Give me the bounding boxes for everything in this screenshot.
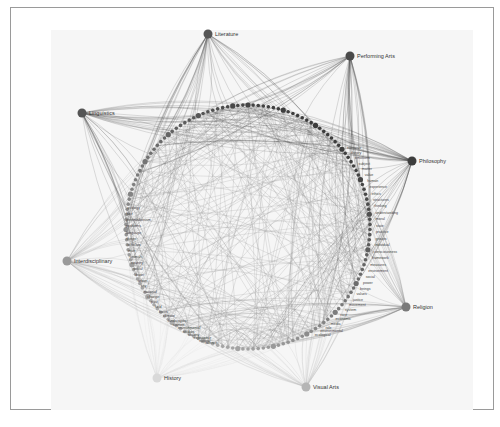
term-label: emotions	[355, 156, 370, 160]
term-label: postmodernism	[126, 218, 151, 222]
term-label: ecology	[128, 206, 141, 210]
hub-label: Visual Arts	[313, 384, 339, 390]
term-label: focus	[159, 310, 168, 314]
term-label: man	[128, 249, 135, 253]
term-label: city	[141, 284, 147, 288]
term-label: scholars	[127, 243, 141, 247]
term-label: system	[345, 308, 356, 312]
term-label: water	[136, 273, 146, 277]
term-label: movement	[349, 303, 366, 307]
term-label: problems	[126, 224, 141, 228]
term-label: urban	[138, 279, 147, 283]
hub-label: Literature	[215, 31, 238, 37]
hub-religion: Religion	[402, 303, 433, 312]
term-label: values	[357, 292, 368, 296]
hub-philosophy: Philosophy	[408, 157, 447, 166]
term-label: language	[126, 231, 141, 235]
hub-label: Linguistics	[89, 110, 115, 116]
term-label: structures	[373, 198, 389, 202]
term-label: past	[151, 300, 158, 304]
network-diagram: ecologyfactpostmodernismproblemslanguage…	[0, 0, 500, 427]
term-label: fact	[127, 212, 133, 216]
term-label: value	[365, 173, 374, 177]
term-label: country	[131, 261, 143, 265]
term-label: individual	[375, 243, 390, 247]
term-label: moral	[376, 217, 385, 221]
term-label: power	[363, 281, 374, 285]
term-label: ethics	[371, 192, 381, 196]
term-label: state	[376, 224, 384, 228]
hub-literature: Literature	[204, 30, 239, 39]
term-label: framework	[372, 256, 389, 260]
term-label: understanding	[375, 211, 398, 215]
hub-performing-arts: Performing Arts	[346, 52, 396, 61]
term-label: social	[133, 267, 142, 271]
term-label: ecological	[315, 333, 331, 337]
term-label: consciousness	[374, 250, 398, 254]
term-label: subject	[359, 162, 370, 166]
term-label: human	[367, 179, 378, 183]
term-label: national	[144, 290, 157, 294]
hub-history: History	[153, 374, 182, 383]
hub-label: Philosophy	[419, 158, 446, 164]
hub-label: History	[164, 375, 181, 381]
term-label: experience	[369, 185, 387, 189]
term-label: practice	[376, 230, 389, 234]
term-label: beings	[360, 287, 371, 291]
term-label: things	[127, 237, 137, 241]
hub-label: Performing Arts	[357, 53, 395, 59]
term-label: thinking	[374, 204, 386, 208]
term-label: theory	[351, 151, 361, 155]
term-label: narrative	[347, 146, 361, 150]
term-label: race	[340, 313, 347, 317]
term-label: social	[366, 275, 375, 279]
term-label: measures	[370, 263, 386, 267]
term-label: change	[147, 295, 159, 299]
term-label: science	[205, 341, 217, 345]
hub-visual-arts: Visual Arts	[302, 383, 340, 392]
term-label: groups	[375, 237, 386, 241]
term-label: media	[331, 322, 341, 326]
term-label: justice	[352, 298, 363, 302]
term-label: animals	[130, 255, 143, 259]
hub-label: Interdisciplinary	[74, 258, 112, 264]
term-label: environment	[368, 269, 388, 273]
hub-label: Religion	[413, 304, 433, 310]
term-label: matter	[362, 167, 373, 171]
term-label: field	[155, 305, 162, 309]
